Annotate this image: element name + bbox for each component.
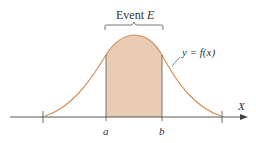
curve-label-pointer xyxy=(172,57,180,66)
event-brace xyxy=(105,22,163,30)
a-label: a xyxy=(103,125,109,137)
curve-label: y = f(x) xyxy=(181,46,215,59)
probability-density-diagram: Event E y = f(x) X a b xyxy=(0,0,256,143)
event-shaded-area xyxy=(106,35,162,117)
b-label: b xyxy=(159,125,165,137)
event-label: Event E xyxy=(116,8,155,22)
x-axis-arrow-icon xyxy=(240,114,248,120)
axis-label-x: X xyxy=(237,100,246,112)
